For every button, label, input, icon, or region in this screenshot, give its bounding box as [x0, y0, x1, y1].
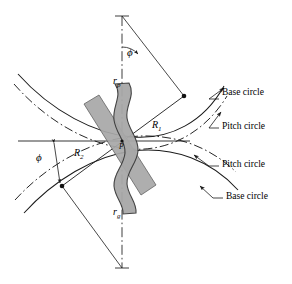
radius-R2-line	[62, 186, 122, 268]
gear-radius-lines	[62, 186, 122, 268]
contact-point-upper	[182, 94, 187, 99]
gear-mesh-diagram: Base circle Pitch circle Pitch circle Ba…	[0, 0, 292, 284]
callout-leaders	[194, 88, 224, 198]
label-pressure-angle-lower: ϕ	[36, 152, 42, 163]
leader-pitch-circle-upper	[209, 112, 221, 128]
label-R2-sub: 2	[80, 153, 84, 161]
label-rg-sub: g	[117, 212, 121, 220]
label-R1-sub: 1	[158, 125, 162, 133]
leader-pitch-circle-lower	[194, 155, 209, 166]
label-pitch-point: P	[119, 143, 124, 151]
label-pressure-angle-top: ϕ	[127, 47, 133, 58]
callout-pitch-circle-upper: Pitch circle	[222, 122, 265, 132]
label-rp-sub: p	[117, 81, 121, 89]
label-radius-R1: R1	[152, 120, 162, 133]
contact-point-lower	[60, 184, 65, 189]
callout-base-circle-upper: Base circle	[222, 88, 264, 98]
callout-base-circle-lower: Base circle	[226, 192, 268, 202]
callout-pitch-circle-lower: Pitch circle	[222, 160, 265, 170]
label-pinion-pitch-radius: rp	[113, 76, 120, 89]
label-gear-pitch-radius: rg	[113, 207, 120, 220]
diagram-canvas	[0, 0, 292, 284]
leader-base-circle-lower	[200, 186, 213, 198]
label-radius-R2: R2	[74, 148, 84, 161]
